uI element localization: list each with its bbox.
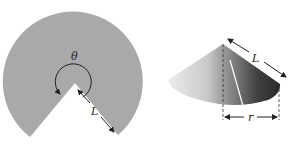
cone-radius-label: r <box>248 111 254 124</box>
sector-radius-label: L <box>90 105 98 118</box>
sector-shape <box>3 12 143 137</box>
cone: r L <box>168 39 286 124</box>
theta-label: θ <box>71 50 78 63</box>
cone-slant-arrow-b <box>264 62 286 77</box>
cone-slant-label: L <box>251 52 259 65</box>
sector-cone-diagram: θ L r L <box>0 0 293 153</box>
cone-body <box>168 44 280 105</box>
flat-sector: θ L <box>3 12 143 137</box>
